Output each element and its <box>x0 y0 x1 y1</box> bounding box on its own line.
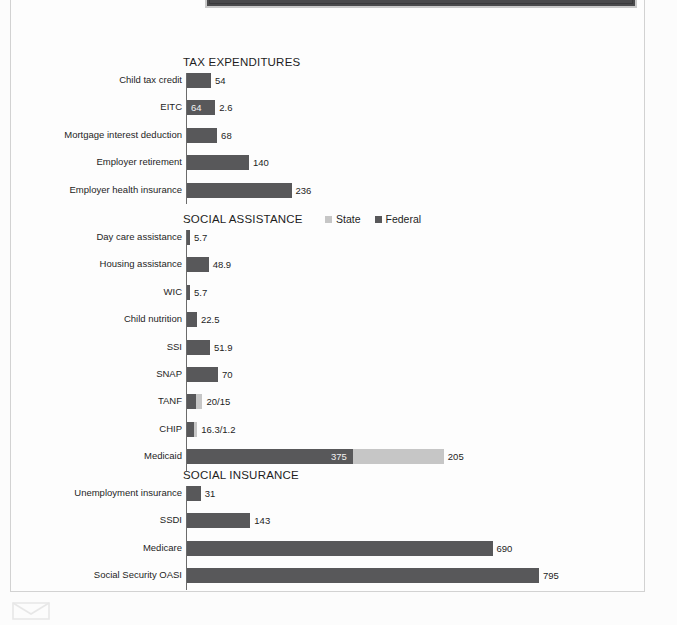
panel-title: SOCIAL ASSISTANCE <box>183 213 303 225</box>
bar-group <box>187 568 539 583</box>
chart-legend: StateFederal <box>325 213 421 225</box>
bar-value-label: 5.7 <box>194 287 207 298</box>
bar-value-inside: 375 <box>331 451 347 462</box>
bar-group <box>187 449 444 464</box>
category-label: WIC <box>164 286 182 297</box>
chart-row: CHIP16.3/1.2 <box>0 422 660 437</box>
bar-segment-federal <box>187 340 210 355</box>
chart-row: SSI51.9 <box>0 340 660 355</box>
bar-segment-federal <box>187 513 250 528</box>
bar-group <box>187 73 211 88</box>
category-label: Day care assistance <box>96 231 182 242</box>
bar-group <box>187 312 197 327</box>
federal-swatch <box>375 216 382 223</box>
category-label: Social Security OASI <box>94 569 182 580</box>
bar-value-label: 20/15 <box>206 396 230 407</box>
bar-value-label: 68 <box>221 130 232 141</box>
bar-group <box>187 285 190 300</box>
category-label: SSDI <box>160 514 182 525</box>
bar-value-label: 51.9 <box>214 342 233 353</box>
legend-item-federal-label: Federal <box>386 213 422 225</box>
category-label: Employer health insurance <box>70 184 182 195</box>
bar-value-label: 54 <box>215 75 226 86</box>
category-label: Housing assistance <box>100 258 182 269</box>
bar-segment-federal <box>187 155 249 170</box>
bar-group <box>187 128 217 143</box>
chart-row: Social Security OASI795 <box>0 568 660 583</box>
chart-row: EITC642.6 <box>0 100 660 115</box>
bar-segment-federal <box>187 257 209 272</box>
legend-item-federal: Federal <box>375 213 422 225</box>
category-label: Medicaid <box>144 450 182 461</box>
category-label: Mortgage interest deduction <box>64 129 182 140</box>
bar-value-label: 140 <box>253 157 269 168</box>
chart-row: Mortgage interest deduction68 <box>0 128 660 143</box>
bar-segment-federal <box>187 183 292 198</box>
category-label: TANF <box>158 395 182 406</box>
bar-value-label: 795 <box>543 570 559 581</box>
bar-value-label: 31 <box>205 488 216 499</box>
category-label: Child nutrition <box>124 313 182 324</box>
bar-value-label: 16.3/1.2 <box>201 424 235 435</box>
chart-row: Child tax credit54 <box>0 73 660 88</box>
chart-row: TANF20/15 <box>0 394 660 409</box>
category-label: Unemployment insurance <box>74 487 182 498</box>
bar-segment-state <box>194 422 197 437</box>
bar-group <box>187 486 201 501</box>
bar-value-label: 48.9 <box>213 259 232 270</box>
bar-group <box>187 183 292 198</box>
category-label: CHIP <box>159 423 182 434</box>
bar-segment-state <box>196 394 203 409</box>
chart-row: Medicaid375205 <box>0 449 660 464</box>
category-label: EITC <box>160 101 182 112</box>
panel-title: SOCIAL INSURANCE <box>183 469 299 481</box>
bar-segment-federal <box>187 285 190 300</box>
chart-row: Medicare690 <box>0 541 660 556</box>
category-label: Child tax credit <box>119 74 182 85</box>
bar-segment-federal <box>187 230 190 245</box>
category-label: Medicare <box>143 542 182 553</box>
bar-segment-federal <box>187 73 211 88</box>
bar-group <box>187 394 202 409</box>
bar-value-label: 2.6 <box>219 102 232 113</box>
bar-value-label: 5.7 <box>194 232 207 243</box>
bar-group <box>187 513 250 528</box>
category-label: SNAP <box>156 368 182 379</box>
bar-value-label: 236 <box>296 185 312 196</box>
bar-segment-federal <box>187 128 217 143</box>
chart-row: Unemployment insurance31 <box>0 486 660 501</box>
bar-segment-federal <box>187 422 194 437</box>
bar-segment-federal <box>187 312 197 327</box>
bar-group <box>187 230 190 245</box>
bar-group <box>187 340 210 355</box>
chart-row: WIC5.7 <box>0 285 660 300</box>
bar-segment-federal <box>187 486 201 501</box>
bar-value-label: 205 <box>448 451 464 462</box>
category-label: SSI <box>167 341 182 352</box>
bar-segment-federal <box>187 541 493 556</box>
envelope-icon <box>12 602 50 620</box>
chart-row: Day care assistance5.7 <box>0 230 660 245</box>
chart-row: SSDI143 <box>0 513 660 528</box>
chart-row: Employer retirement140 <box>0 155 660 170</box>
chart-row: Employer health insurance236 <box>0 183 660 198</box>
bar-value-label: 70 <box>222 369 233 380</box>
bar-group <box>187 257 209 272</box>
panel-title: TAX EXPENDITURES <box>183 56 300 68</box>
chart-row: Child nutrition22.5 <box>0 312 660 327</box>
bar-value-label: 22.5 <box>201 314 220 325</box>
bar-group <box>187 155 249 170</box>
bar-segment-federal <box>187 367 218 382</box>
bar-group <box>187 367 218 382</box>
bar-segment-federal <box>187 449 353 464</box>
bar-segment-federal <box>187 568 539 583</box>
bar-value-inside: 64 <box>191 102 202 113</box>
bar-value-label: 143 <box>254 515 270 526</box>
legend-item-state: State <box>325 213 361 225</box>
bar-value-label: 690 <box>497 543 513 554</box>
category-label: Employer retirement <box>96 156 182 167</box>
legend-item-state-label: State <box>336 213 361 225</box>
chart-row: SNAP70 <box>0 367 660 382</box>
figure-three-panel-bar-chart: TAX EXPENDITURESChild tax credit54EITC64… <box>0 0 677 600</box>
bar-group <box>187 541 493 556</box>
